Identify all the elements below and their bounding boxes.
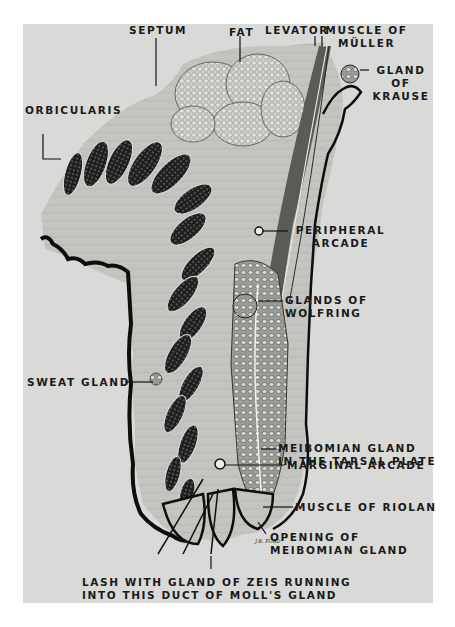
label-septum: SEPTUM	[129, 24, 187, 37]
label-opening-of-meibomian-gland: OPENING OF MEIBOMIAN GLAND	[270, 531, 408, 557]
sweat-gland	[150, 373, 162, 385]
label-fat: FAT	[229, 26, 254, 39]
label-lash-gland-of-zeis: LASH WITH GLAND OF ZEIS RUNNING INTO THI…	[82, 576, 351, 602]
label-muscle-of-muller: MUSCLE OF MÜLLER	[314, 24, 419, 50]
gland-of-krause	[341, 65, 359, 83]
illustration-plate: SEPTUM FAT LEVATOR MUSCLE OF MÜLLER GLAN…	[23, 24, 433, 603]
label-muscle-of-riolan: MUSCLE OF RIOLAN	[295, 501, 437, 514]
marginal-arcade-vessel	[215, 459, 225, 469]
glands-of-wolfring	[233, 294, 257, 318]
label-gland-of-krause: GLAND OF KRAUSE	[370, 64, 432, 103]
label-peripheral-arcade: PERIPHERAL ARCADE	[283, 224, 398, 250]
fat-lobules	[171, 54, 305, 146]
label-orbicularis: ORBICULARIS	[25, 104, 122, 117]
label-sweat-gland: SWEAT GLAND	[27, 376, 130, 389]
label-marginal-arcade: MARGINAL ARCADE	[287, 459, 425, 472]
peripheral-arcade-vessel	[255, 227, 263, 235]
label-glands-of-wolfring: GLANDS OF WOLFRING	[285, 294, 368, 320]
artist-signature: J.R. FORD	[255, 538, 281, 544]
